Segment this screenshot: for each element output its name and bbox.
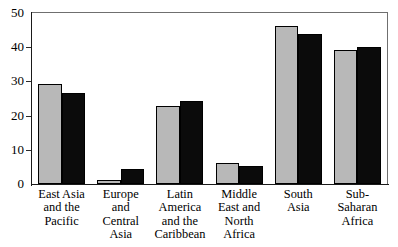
bar-series-layer: [32, 13, 387, 184]
y-axis-tick-label: 20: [0, 109, 24, 122]
bar: [62, 93, 86, 184]
x-axis-line: [31, 184, 389, 185]
x-axis-category-label-line: North: [200, 215, 278, 228]
bar: [216, 163, 240, 184]
x-axis-category-labels: East Asiaand thePacificEuropeandCentralA…: [31, 188, 389, 246]
x-axis-category-label-line: Africa: [200, 228, 278, 241]
y-axis-tick-label: 30: [0, 74, 24, 87]
y-axis-tick-label: 50: [0, 6, 24, 19]
bar: [180, 101, 204, 184]
bar: [38, 84, 62, 184]
bar: [156, 106, 180, 184]
bar: [239, 166, 263, 184]
bar: [121, 169, 145, 184]
bar: [97, 180, 121, 184]
x-axis-category-label-line: Sub-: [318, 188, 396, 201]
bar: [357, 47, 381, 184]
clipped-title-fragment: [34, 0, 234, 2]
x-axis-category-label-line: Saharan: [318, 201, 396, 214]
bar: [298, 34, 322, 184]
y-axis-tick-label: 0: [0, 177, 24, 190]
x-axis-category-label-line: Africa: [318, 215, 396, 228]
y-axis-tick-label: 40: [0, 40, 24, 53]
bar-chart: 50403020100 East Asiaand thePacificEurop…: [0, 0, 398, 247]
bar: [334, 50, 358, 184]
x-axis-category-label: Sub-SaharanAfrica: [318, 188, 396, 228]
y-axis-tick-label: 10: [0, 143, 24, 156]
bar: [275, 26, 299, 184]
